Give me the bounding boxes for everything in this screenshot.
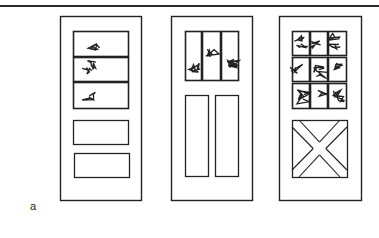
glass-pane (203, 32, 221, 81)
glass-reflection-mark (189, 63, 200, 72)
door-panel (75, 154, 130, 178)
glass-reflection-mark (318, 90, 327, 96)
glass-reflection-mark (297, 90, 310, 104)
glass-reflection-mark (295, 36, 308, 48)
doors-group (61, 17, 362, 201)
glass-reflection-mark (313, 65, 327, 78)
door-illustration (0, 0, 379, 238)
glass-reflection-mark (333, 90, 344, 102)
glass-reflection-mark (88, 44, 100, 50)
door-panel (74, 121, 129, 145)
figure-label: a (30, 200, 36, 212)
glass-reflection-mark (206, 49, 219, 57)
glass-reflection-mark (82, 92, 95, 100)
glass-pane (329, 58, 347, 82)
door-three-horizontal-lites (61, 17, 142, 201)
door-nine-lite-crossbuck (280, 17, 362, 201)
glass-reflection-mark (328, 34, 341, 50)
glass-pane (186, 32, 202, 81)
glass-reflection-mark (227, 59, 239, 67)
door-three-vertical-lites (172, 17, 253, 201)
door-panel (186, 96, 209, 177)
glass-reflection-mark (82, 61, 96, 74)
glass-pane (74, 32, 129, 57)
glass-reflection-mark (334, 64, 343, 70)
glass-pane (74, 83, 129, 109)
glass-pane (222, 32, 239, 81)
crossbuck-panel (293, 121, 348, 178)
door-panel (216, 96, 239, 177)
glass-pane (74, 58, 129, 82)
door-frame (172, 17, 253, 201)
